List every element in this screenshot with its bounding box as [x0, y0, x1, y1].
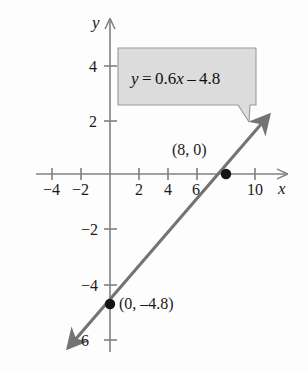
x-tick-label-neg2: −2: [72, 182, 89, 198]
y-axis-label: y: [92, 14, 100, 31]
point-marker-0-neg48: [105, 299, 115, 309]
y-tick-label-2: 2: [89, 114, 97, 130]
function-line: [68, 115, 269, 348]
x-tick-label-10: 10: [247, 182, 263, 198]
x-tick-label-6: 6: [192, 182, 200, 198]
y-tick-label-neg2: −2: [81, 222, 98, 238]
equation-label-y: y: [131, 69, 139, 88]
y-tick-label-4: 4: [89, 59, 97, 75]
x-tick-label-2: 2: [135, 182, 143, 198]
point-label-8-0: (8, 0): [172, 142, 207, 158]
equation-label-constant: – 4.8: [184, 69, 221, 88]
x-tick-label-4: 4: [164, 182, 172, 198]
equation-label-operator: = 0.6: [139, 69, 177, 88]
equation-label-x: x: [176, 69, 184, 88]
x-axis-label: x: [278, 180, 286, 197]
equation-label: y = 0.6x – 4.8: [131, 70, 220, 87]
point-label-0-neg48: (0, –4.8): [119, 296, 174, 312]
y-tick-label-neg6: 6: [81, 333, 89, 349]
x-tick-label-neg4: −4: [43, 182, 60, 198]
point-marker-8-0: [221, 169, 231, 179]
y-tick-label-neg4: −4: [81, 278, 98, 294]
graph-figure: y = 0.6x – 4.8 (8, 0) (0, –4.8) −4 −2 2 …: [0, 0, 308, 370]
